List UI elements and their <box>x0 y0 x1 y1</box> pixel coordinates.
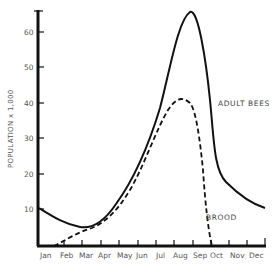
y-tick-label: 30 <box>24 134 34 143</box>
month-label: Dec <box>249 251 264 260</box>
month-label: Jul <box>155 251 165 260</box>
month-label: Nov <box>230 251 245 260</box>
month-label: Aug <box>173 251 188 260</box>
month-label: Jan <box>39 251 52 260</box>
adult-bees-line <box>39 12 265 228</box>
month-label: May <box>117 251 133 260</box>
x-tick-labels: Jan Feb Mar Apr May Jun Jul Aug Sep Oct … <box>39 251 264 260</box>
month-label: Apr <box>98 251 112 260</box>
y-tick-label: 10 <box>24 205 34 214</box>
brood-label: BROOD <box>206 213 237 222</box>
month-label: Jun <box>135 251 148 260</box>
month-label: Feb <box>60 251 74 260</box>
y-tick-label: 40 <box>24 99 34 108</box>
month-label: Sep <box>193 251 207 260</box>
adult-bees-label: ADULT BEES <box>218 99 270 108</box>
brood-line <box>54 99 212 246</box>
y-tick-label: 50 <box>24 63 34 72</box>
month-label: Mar <box>79 251 94 260</box>
population-chart: 10 20 30 40 50 60 POPULATION x 1,000 Jan… <box>0 0 274 268</box>
y-tick-labels: 10 20 30 40 50 60 <box>24 28 34 214</box>
y-tick-label: 60 <box>24 28 34 37</box>
y-axis-title: POPULATION x 1,000 <box>7 90 15 169</box>
month-label: Oct <box>210 251 223 260</box>
y-tick-label: 20 <box>24 170 34 179</box>
